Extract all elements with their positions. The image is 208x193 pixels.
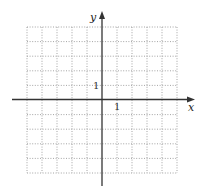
x-tick-label: 1 xyxy=(114,101,120,112)
x-axis-label: x xyxy=(188,101,195,114)
x-axis xyxy=(12,97,195,103)
y-axis xyxy=(99,11,105,186)
y-tick-label: 1 xyxy=(93,80,99,91)
y-axis-arrow-icon xyxy=(99,11,105,19)
y-axis-label: y xyxy=(89,11,97,24)
coordinate-plane: y x 1 1 xyxy=(0,0,208,193)
